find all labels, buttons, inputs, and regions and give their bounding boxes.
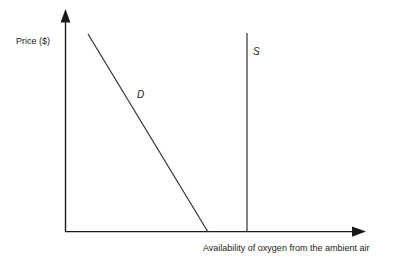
supply-curve-label: S (253, 46, 260, 57)
demand-curve-label: D (137, 89, 144, 100)
supply-demand-plot (0, 0, 402, 261)
x-axis-arrowhead-icon (352, 226, 366, 236)
y-axis-arrowhead-icon (61, 9, 71, 23)
demand-curve (88, 34, 208, 232)
x-axis-label: Availability of oxygen from the ambient … (203, 243, 369, 254)
y-axis-label: Price ($) (16, 36, 50, 47)
chart-figure: Price ($) Availability of oxygen from th… (0, 0, 402, 261)
